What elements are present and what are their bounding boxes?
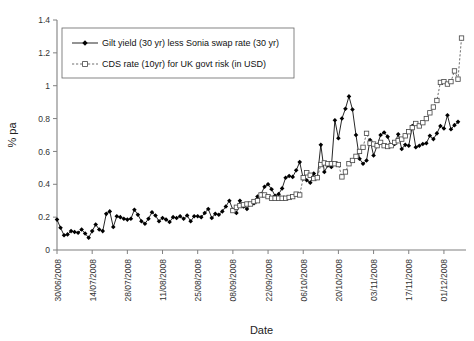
data-point-marker (227, 198, 232, 203)
data-point-marker (396, 132, 401, 137)
chart-figure: 00.20.40.60.811.21.4% pa30/06/200814/07/… (0, 0, 474, 341)
y-tick-label: 1.4 (38, 15, 50, 25)
data-point-marker (255, 199, 259, 203)
x-tick-label: 11/08/2008 (158, 259, 168, 301)
data-point-marker (195, 214, 200, 219)
data-point-marker (294, 168, 299, 173)
data-point-marker (350, 107, 355, 112)
data-point-marker (290, 175, 295, 180)
data-point-marker (280, 186, 285, 191)
y-tick-label: 1 (45, 81, 50, 91)
data-point-marker (315, 176, 319, 180)
line-chart: 00.20.40.60.811.21.4% pa30/06/200814/07/… (0, 0, 474, 341)
data-point-marker (456, 77, 460, 81)
x-tick-label: 08/09/2008 (228, 259, 238, 302)
data-point-marker (340, 175, 344, 179)
data-point-marker (340, 116, 345, 121)
legend-box (62, 28, 294, 78)
data-point-marker (125, 217, 130, 222)
x-tick-label: 25/08/2008 (193, 259, 203, 302)
data-point-marker (435, 131, 440, 136)
data-point-marker (347, 94, 352, 99)
legend-marker-cds-rate (83, 62, 88, 67)
data-point-marker (111, 225, 116, 230)
legend-label-gilt-yield: Gilt yield (30 yr) less Sonia swap rate … (102, 38, 279, 48)
data-point-marker (445, 113, 450, 118)
x-tick-label: 06/10/2008 (299, 259, 309, 302)
x-tick-label: 30/06/2008 (53, 259, 63, 302)
x-tick-label: 14/07/2008 (88, 259, 98, 302)
data-point-marker (406, 143, 411, 148)
data-point-marker (364, 131, 368, 135)
data-point-marker (301, 176, 305, 180)
data-point-marker (322, 170, 327, 175)
legend-label-cds-rate: CDS rate (10yr) for UK govt risk (in USD… (102, 59, 266, 69)
data-point-marker (431, 105, 435, 109)
data-point-marker (428, 111, 432, 115)
y-tick-label: 0.6 (38, 147, 50, 157)
y-tick-label: 0.4 (38, 179, 50, 189)
data-point-marker (449, 79, 453, 83)
y-tick-label: 1.2 (38, 48, 50, 58)
data-point-marker (90, 229, 95, 234)
data-point-marker (333, 118, 338, 123)
data-point-marker (298, 193, 302, 197)
data-point-marker (354, 133, 359, 138)
data-point-marker (62, 233, 67, 238)
data-point-marker (115, 214, 120, 219)
data-point-marker (343, 106, 348, 111)
x-tick-label: 01/12/2008 (439, 259, 449, 302)
data-point-marker (297, 160, 302, 165)
data-point-marker (371, 153, 376, 158)
data-point-marker (354, 154, 358, 158)
series-markers-gilt-yield (55, 94, 461, 240)
data-point-marker (319, 143, 324, 148)
data-point-marker (55, 217, 60, 222)
data-point-marker (129, 216, 134, 221)
x-axis-title: Date (250, 324, 273, 336)
y-tick-label: 0.8 (38, 114, 50, 124)
data-point-marker (459, 36, 463, 40)
data-point-marker (424, 116, 428, 120)
y-tick-label: 0 (45, 245, 50, 255)
data-point-marker (58, 226, 63, 231)
data-point-marker (336, 162, 340, 166)
y-axis-title: % pa (6, 122, 18, 148)
data-point-marker (336, 136, 341, 141)
data-point-marker (452, 69, 456, 73)
x-tick-label: 22/09/2008 (264, 259, 274, 302)
data-point-marker (343, 170, 347, 174)
y-tick-label: 0.2 (38, 212, 50, 222)
data-point-marker (72, 230, 77, 235)
x-tick-label: 20/10/2008 (334, 259, 344, 302)
x-tick-label: 17/11/2008 (404, 259, 414, 301)
data-point-marker (435, 98, 439, 102)
x-tick-label: 28/07/2008 (123, 259, 133, 302)
x-tick-label: 03/11/2008 (369, 259, 379, 301)
data-point-marker (361, 145, 365, 149)
data-point-marker (424, 141, 429, 146)
